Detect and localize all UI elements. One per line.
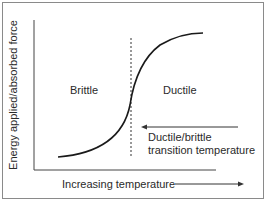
annotation-arrowhead-icon	[141, 125, 147, 130]
annotation-line2: transition temperature	[148, 144, 255, 157]
annotation-line1: Ductile/brittle	[148, 131, 212, 144]
x-axis-label: Increasing temperature	[62, 178, 175, 191]
brittle-region-label: Brittle	[70, 84, 98, 97]
y-axis-label: Energy applied/absorbed force	[7, 20, 19, 170]
ductile-region-label: Ductile	[163, 84, 197, 97]
x-axis-arrowhead-icon	[238, 182, 244, 187]
diagram-canvas	[0, 0, 267, 205]
